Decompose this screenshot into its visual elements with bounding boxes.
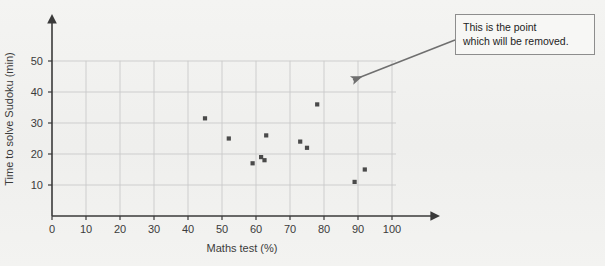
x-tick-label: 0 <box>49 223 55 235</box>
y-tick-label: 30 <box>31 117 43 129</box>
x-tick-label: 80 <box>318 223 330 235</box>
annotation-line-2: which will be removed. <box>463 34 588 48</box>
gridlines <box>52 61 396 216</box>
x-tick-label: 90 <box>352 223 364 235</box>
y-tick-labels: 1020304050 <box>31 55 43 191</box>
x-tick-label: 100 <box>383 223 401 235</box>
data-point <box>227 136 231 140</box>
annotation-arrow <box>353 40 455 80</box>
data-point <box>353 180 357 184</box>
x-tick-label: 60 <box>250 223 262 235</box>
y-axis-title: Time to solve Sudoku (min) <box>3 52 15 185</box>
x-axis-title: Maths test (%) <box>207 242 278 254</box>
y-tick-label: 20 <box>31 148 43 160</box>
data-point <box>264 133 268 137</box>
data-point-highlighted <box>315 102 319 106</box>
x-tick-label: 20 <box>114 223 126 235</box>
annotation-line-1: This is the point <box>463 20 588 34</box>
data-point <box>251 161 255 165</box>
x-tick-label: 40 <box>182 223 194 235</box>
x-tick-label: 70 <box>284 223 296 235</box>
y-tick-label: 50 <box>31 55 43 67</box>
x-tick-label: 50 <box>216 223 228 235</box>
data-point-group <box>203 102 367 184</box>
scatter-plot: 0102030405060708090100 1020304050 Maths … <box>0 0 605 266</box>
data-point <box>298 140 302 144</box>
annotation-callout: This is the point which will be removed. <box>455 14 595 55</box>
y-tick-label: 40 <box>31 86 43 98</box>
data-point <box>203 116 207 120</box>
x-tick-label: 30 <box>148 223 160 235</box>
y-tick-label: 10 <box>31 179 43 191</box>
data-point <box>262 158 266 162</box>
data-point <box>363 167 367 171</box>
x-tick-label: 10 <box>80 223 92 235</box>
x-tick-labels: 0102030405060708090100 <box>49 223 401 235</box>
data-point <box>305 146 309 150</box>
